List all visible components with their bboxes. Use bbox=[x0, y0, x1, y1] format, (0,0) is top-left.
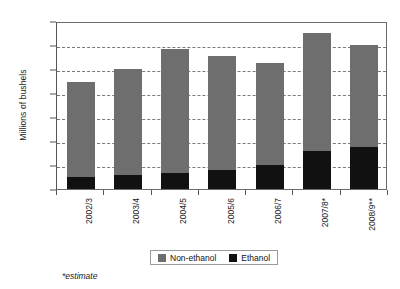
stacked-bar[interactable] bbox=[350, 45, 378, 189]
x-axis-tick-label: 2007/8* bbox=[320, 198, 330, 227]
bar-segment-ethanol[interactable] bbox=[208, 170, 236, 189]
x-axis-tick-mark bbox=[292, 190, 293, 195]
bar-slot bbox=[293, 23, 340, 189]
x-axis-tick-mark bbox=[151, 190, 152, 195]
x-axis-tick-mark bbox=[245, 190, 246, 195]
x-axis-tick-mark bbox=[103, 190, 104, 195]
bar-segment-ethanol[interactable] bbox=[256, 165, 284, 189]
x-axis-tick-label: 2002/3 bbox=[84, 198, 94, 224]
stacked-bar[interactable] bbox=[303, 33, 331, 189]
bar-segment-ethanol[interactable] bbox=[161, 173, 189, 189]
legend-entry[interactable]: Ethanol bbox=[229, 253, 270, 263]
x-axis-tick-mark bbox=[340, 190, 341, 195]
x-axis-tick-mark bbox=[198, 190, 199, 195]
x-axis-tick-label: 2006/7 bbox=[273, 198, 283, 224]
stacked-bar[interactable] bbox=[67, 82, 95, 189]
bar-segment-ethanol[interactable] bbox=[67, 177, 95, 189]
x-axis-tick-label: 2008/9** bbox=[367, 198, 377, 231]
bar-slot bbox=[341, 23, 388, 189]
bar-segment-non-ethanol[interactable] bbox=[161, 49, 189, 174]
bar-slot bbox=[57, 23, 104, 189]
stacked-bar[interactable] bbox=[208, 56, 236, 189]
chart-legend: Non-ethanolEthanol bbox=[150, 250, 278, 265]
legend-label: Non-ethanol bbox=[170, 253, 216, 263]
bar-slot bbox=[152, 23, 199, 189]
bar-segment-non-ethanol[interactable] bbox=[208, 56, 236, 170]
bar-segment-non-ethanol[interactable] bbox=[303, 33, 331, 151]
bar-slot bbox=[104, 23, 151, 189]
legend-swatch-ethanol bbox=[229, 254, 237, 262]
bar-segment-non-ethanol[interactable] bbox=[114, 69, 142, 175]
legend-swatch-non-ethanol bbox=[158, 254, 166, 262]
x-axis-tick-label: 2004/5 bbox=[178, 198, 188, 224]
x-axis-tick-label: 2005/6 bbox=[226, 198, 236, 224]
bar-slot bbox=[199, 23, 246, 189]
x-axis-tick-mark bbox=[56, 190, 57, 195]
stacked-bar[interactable] bbox=[114, 69, 142, 189]
bar-segment-non-ethanol[interactable] bbox=[67, 82, 95, 177]
bar-segment-non-ethanol[interactable] bbox=[256, 63, 284, 165]
legend-label: Ethanol bbox=[241, 253, 270, 263]
bar-segment-non-ethanol[interactable] bbox=[350, 45, 378, 147]
x-axis-tick-label: 2003/4 bbox=[131, 198, 141, 224]
chart-figure: Millions of bushels 02000400060008000100… bbox=[0, 0, 400, 289]
legend-entry[interactable]: Non-ethanol bbox=[158, 253, 216, 263]
y-axis-title: Millions of bushels bbox=[18, 35, 28, 175]
bar-slot bbox=[246, 23, 293, 189]
chart-footnote: *estimate bbox=[62, 271, 97, 281]
plot-area bbox=[56, 22, 387, 190]
bar-segment-ethanol[interactable] bbox=[303, 151, 331, 189]
x-axis-tick-mark bbox=[387, 190, 388, 195]
bar-segment-ethanol[interactable] bbox=[350, 147, 378, 189]
stacked-bar[interactable] bbox=[256, 63, 284, 189]
stacked-bar[interactable] bbox=[161, 49, 189, 189]
bar-segment-ethanol[interactable] bbox=[114, 175, 142, 189]
